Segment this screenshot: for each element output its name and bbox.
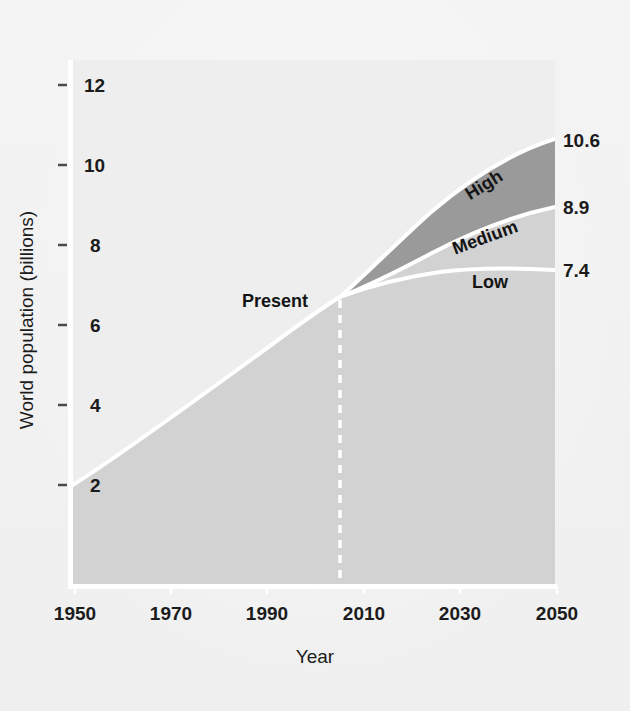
end-label-high: 10.6 xyxy=(563,130,600,151)
figure-container: 12 10 8 6 4 2 1950 1970 1990 2010 2030 2… xyxy=(0,0,630,711)
low-area xyxy=(340,268,555,584)
y-tick-label-8: 8 xyxy=(90,235,101,256)
present-annotation-label: Present xyxy=(242,291,308,311)
y-tick-label-4: 4 xyxy=(90,395,101,416)
y-axis-title: World population (billions) xyxy=(16,211,37,429)
end-label-low: 7.4 xyxy=(563,260,590,281)
end-label-medium: 8.9 xyxy=(563,197,589,218)
series-label-low: Low xyxy=(472,272,509,292)
y-tick-label-6: 6 xyxy=(90,315,101,336)
x-tick-label-1950: 1950 xyxy=(54,603,96,624)
x-axis-title: Year xyxy=(296,646,335,667)
y-tick-label-12: 12 xyxy=(84,75,105,96)
x-tick-label-2030: 2030 xyxy=(439,603,481,624)
x-tick-label-1990: 1990 xyxy=(246,603,288,624)
y-tick-label-2: 2 xyxy=(90,475,101,496)
x-tick-label-2050: 2050 xyxy=(536,603,578,624)
y-tick-label-10: 10 xyxy=(84,155,105,176)
population-projection-chart: 12 10 8 6 4 2 1950 1970 1990 2010 2030 2… xyxy=(0,0,630,711)
y-axis-ticks xyxy=(58,85,67,485)
x-tick-label-2010: 2010 xyxy=(343,603,385,624)
x-tick-label-1970: 1970 xyxy=(150,603,192,624)
